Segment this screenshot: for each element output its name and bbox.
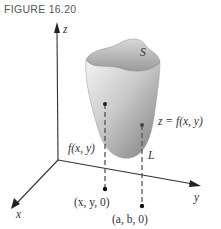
y-axis <box>58 160 193 184</box>
y-axis-arrow-icon <box>189 180 201 187</box>
equation-label: z = f(x, y) <box>158 116 203 128</box>
z-axis-label: z <box>63 24 67 36</box>
line-label: L <box>148 150 154 162</box>
x-axis-label: x <box>16 209 21 221</box>
z-axis <box>57 30 58 160</box>
point-on-surface-xy <box>103 102 107 106</box>
x-axis <box>16 160 58 204</box>
point-ab0 <box>140 204 144 208</box>
point-xy0 <box>103 187 107 191</box>
point-on-surface-ab <box>140 123 144 127</box>
height-label: f(x, y) <box>68 143 95 155</box>
y-axis-label: y <box>194 192 199 204</box>
point-xy0-label: (x, y, 0) <box>74 197 110 209</box>
surface-label: S <box>140 47 146 59</box>
point-ab0-label: (a, b, 0) <box>112 214 148 226</box>
surface-body <box>86 60 160 158</box>
surface-s <box>86 39 160 158</box>
z-axis-arrow-icon <box>54 22 60 33</box>
